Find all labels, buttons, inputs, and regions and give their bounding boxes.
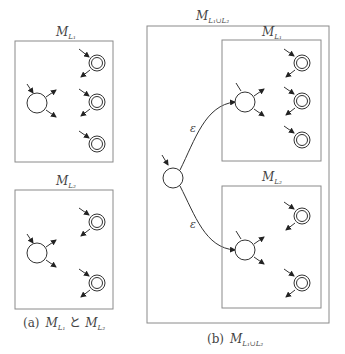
incoming-arrow [284,269,294,276]
epsilon-transition-bottom [180,186,235,250]
final-state-inner [297,135,308,146]
incoming-arrow [79,269,89,276]
former-initial-state [235,92,255,112]
incoming-arrow [27,84,33,93]
final-state-inner [92,58,103,69]
final-state-inner [297,211,308,222]
machine-label: ML₁ [261,25,282,41]
disabled-incoming-arrow [236,231,241,239]
epsilon-label: ε [190,122,196,135]
outgoing-arrow [81,290,90,297]
outgoing-arrow [286,223,295,230]
machine-ml1-b: ML₁ [222,25,321,161]
former-initial-state [235,240,255,260]
panel-a: ML₁ ML₂ [15,25,113,332]
machine-label: ML₁ [55,25,76,41]
incoming-arrow [162,155,168,165]
outgoing-arrow [254,257,264,264]
outgoing-arrow [254,109,264,116]
incoming-arrow [79,49,89,57]
union-machine-label: ML₁∪L₂ [195,9,229,25]
incoming-arrow [79,208,89,215]
incoming-arrow [79,131,89,138]
outgoing-arrow [286,108,295,115]
incoming-arrow [27,234,33,243]
outgoing-arrow [254,237,264,244]
outgoing-arrow [46,260,56,267]
outgoing-arrow [46,240,56,247]
incoming-arrow [284,49,294,56]
outgoing-arrow [81,229,90,236]
outgoing-arrow [254,89,264,96]
incoming-arrow [284,126,294,133]
final-state-inner [92,278,103,289]
machine-ml2-b: ML₂ [222,170,321,308]
panel-b: ML₁∪L₂ ε ε ML₁ [147,9,329,348]
machine-label: ML₂ [55,174,76,190]
machine-ml1-a: ML₁ [15,25,113,162]
caption-a: (a)ML₁とML₂ [23,316,105,332]
final-state-inner [297,58,308,69]
epsilon-transition-top [180,102,235,170]
outgoing-arrow [46,110,56,117]
final-state-inner [92,139,103,150]
final-state-inner [92,217,103,228]
incoming-arrow [79,89,89,96]
final-state-inner [297,96,308,107]
outgoing-arrow [46,90,56,97]
incoming-arrow [284,87,294,94]
initial-state [27,243,47,263]
incoming-arrow [284,202,294,209]
epsilon-label: ε [190,218,196,231]
outgoing-arrow [286,290,295,297]
caption-b: (b)ML₁∪L₂ [207,332,263,348]
initial-state [27,93,47,113]
disabled-incoming-arrow [236,83,241,91]
outgoing-arrow [81,109,90,116]
machine-label: ML₂ [261,170,282,186]
nfa-union-diagram: ML₁ ML₂ [0,0,345,354]
new-initial-state [163,168,183,188]
final-state-inner [92,97,103,108]
final-state-inner [297,278,308,289]
machine-ml2-a: ML₂ [15,174,113,309]
outgoing-arrow [286,70,295,77]
outgoing-arrow [81,70,90,77]
